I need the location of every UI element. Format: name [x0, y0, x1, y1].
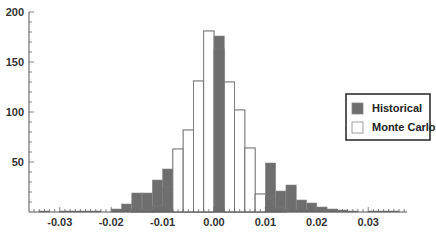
histogram-bars: [39, 31, 399, 212]
bar-historical: [286, 185, 296, 212]
x-tick-label: 0.02: [306, 216, 327, 228]
histogram-chart: 50100150200-0.03-0.02-0.010.000.010.020.…: [0, 0, 436, 235]
x-tick-label: 0.00: [203, 216, 224, 228]
bar-historical: [152, 180, 162, 212]
y-tick-label: 200: [6, 6, 24, 18]
bar-historical: [265, 163, 275, 212]
x-tick-label: -0.01: [150, 216, 175, 228]
legend-swatch-historical: [352, 103, 363, 114]
y-tick-label: 150: [6, 56, 24, 68]
y-tick-label: 100: [6, 106, 24, 118]
legend-swatch-monte-carlo: [352, 122, 363, 133]
y-tick-label: 50: [12, 156, 24, 168]
x-tick-label: 0.03: [357, 216, 378, 228]
legend: Historical Monte Carlo: [346, 94, 436, 140]
bar-historical: [214, 36, 224, 212]
x-tick-label: -0.02: [99, 216, 124, 228]
bar-historical: [163, 169, 173, 212]
bar-historical: [276, 191, 286, 212]
legend-label-historical: Historical: [372, 102, 422, 114]
legend-label-monte-carlo: Monte Carlo: [372, 121, 436, 133]
x-tick-label: 0.01: [255, 216, 276, 228]
x-tick-label: -0.03: [47, 216, 72, 228]
